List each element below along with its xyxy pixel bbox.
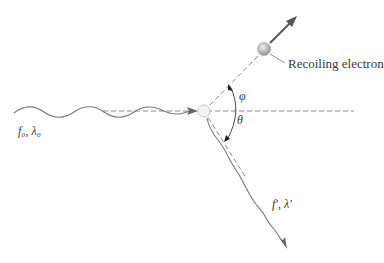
electron-label-leader-line: [270, 54, 285, 63]
incident-photon-label: f₀, λ₀: [18, 125, 41, 137]
theta-angle-label: θ: [237, 114, 243, 126]
target-electron-icon: [198, 105, 210, 117]
phi-angle-label: φ: [239, 90, 246, 102]
electron-direction-dashed-line: [204, 52, 262, 111]
scattered-photon-label: f′, λ′: [272, 198, 292, 210]
angle-arc: [227, 86, 236, 140]
recoiling-electron-label: Recoiling electron: [288, 57, 384, 70]
scattered-photon-wave: [207, 118, 284, 243]
incident-photon-wave: [14, 107, 190, 118]
recoiling-electron-icon: [258, 43, 271, 56]
electron-momentum-arrow: [270, 21, 292, 43]
